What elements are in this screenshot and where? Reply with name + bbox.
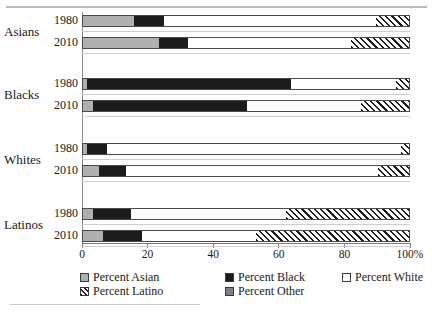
bar-blacks-2010[interactable] (82, 100, 410, 112)
bar-latinos-1980[interactable] (82, 208, 410, 220)
x-axis-tick-label: 40 (207, 248, 219, 260)
bar-segment-asian (83, 231, 103, 241)
row-baseline (82, 224, 410, 225)
x-axis-tick-label: 100% (397, 248, 424, 260)
bar-segment-latino (351, 38, 410, 48)
bar-whites-1980[interactable] (82, 143, 410, 155)
bar-segment-black (103, 231, 142, 241)
bar-segment-white (107, 144, 401, 154)
legend-item-percent-latino[interactable]: Percent Latino (80, 284, 163, 299)
year-label-latinos-1980: 1980 (38, 206, 78, 221)
year-label-whites-1980: 1980 (38, 141, 78, 156)
bottom-rule-divider (10, 304, 200, 305)
legend-swatch-icon (342, 273, 351, 282)
bar-segment-black (99, 166, 126, 176)
year-label-asians-1980: 1980 (38, 13, 78, 28)
bar-segment-latino (378, 166, 410, 176)
year-label-whites-2010: 2010 (38, 163, 78, 178)
legend-item-label: Percent Latino (93, 284, 163, 299)
bar-segment-white (142, 231, 256, 241)
bar-segment-asian (83, 38, 159, 48)
legend-swatch-icon (80, 287, 89, 296)
legend-item-percent-black[interactable]: Percent Black (225, 270, 305, 285)
bar-segment-white (131, 209, 286, 219)
bar-segment-asian (83, 166, 99, 176)
legend-swatch-icon (225, 273, 234, 282)
legend-item-label: Percent Other (238, 284, 304, 299)
bar-segment-latino (401, 144, 410, 154)
legend-item-percent-white[interactable]: Percent White (342, 270, 423, 285)
bar-segment-asian (83, 209, 93, 219)
stacked-bar-chart-figure: 020406080100% Asians19802010Blacks198020… (0, 0, 433, 311)
bar-segment-black (159, 38, 188, 48)
row-baseline (82, 94, 410, 95)
bar-whites-2010[interactable] (82, 165, 410, 177)
bar-segment-white (247, 101, 361, 111)
x-axis-tick-label: 0 (79, 248, 85, 260)
group-label-asians: Asians (4, 24, 39, 40)
year-label-blacks-1980: 1980 (38, 76, 78, 91)
bar-latinos-2010[interactable] (82, 230, 410, 242)
legend-item-label: Percent White (355, 270, 423, 285)
row-baseline (82, 246, 410, 247)
bar-blacks-1980[interactable] (82, 78, 410, 90)
bar-asians-2010[interactable] (82, 37, 410, 49)
bar-segment-white (188, 38, 351, 48)
x-axis-tick-label: 60 (273, 248, 285, 260)
legend-item-label: Percent Asian (93, 270, 159, 285)
row-baseline (82, 159, 410, 160)
bar-segment-asian (83, 101, 93, 111)
legend-item-percent-asian[interactable]: Percent Asian (80, 270, 159, 285)
bar-segment-latino (256, 231, 410, 241)
year-label-asians-2010: 2010 (38, 35, 78, 50)
row-baseline (82, 31, 410, 32)
bar-segment-white (126, 166, 378, 176)
bar-segment-black (93, 209, 131, 219)
row-baseline (82, 181, 410, 182)
bar-segment-black (93, 101, 247, 111)
bar-segment-latino (286, 209, 410, 219)
bar-asians-1980[interactable] (82, 15, 410, 27)
year-label-blacks-2010: 2010 (38, 98, 78, 113)
chart-legend: Percent AsianPercent BlackPercent WhiteP… (80, 270, 430, 302)
bar-segment-black (134, 16, 164, 26)
bar-segment-latino (396, 79, 410, 89)
row-baseline (82, 53, 410, 54)
bar-segment-asian (83, 16, 134, 26)
bar-segment-latino (376, 16, 410, 26)
bar-segment-black (87, 144, 107, 154)
legend-item-percent-other[interactable]: Percent Other (225, 284, 304, 299)
bar-segment-latino (361, 101, 410, 111)
row-baseline (82, 116, 410, 117)
bar-segment-black (87, 79, 291, 89)
legend-swatch-icon (80, 273, 89, 282)
legend-item-label: Percent Black (238, 270, 305, 285)
group-label-whites: Whites (4, 152, 41, 168)
year-label-latinos-2010: 2010 (38, 228, 78, 243)
bar-segment-white (291, 79, 396, 89)
top-rule-divider (6, 6, 427, 8)
x-axis-tick-label: 80 (339, 248, 351, 260)
legend-swatch-icon (225, 287, 234, 296)
group-label-blacks: Blacks (4, 87, 39, 103)
bar-segment-white (164, 16, 376, 26)
x-axis-tick-label: 20 (142, 248, 154, 260)
